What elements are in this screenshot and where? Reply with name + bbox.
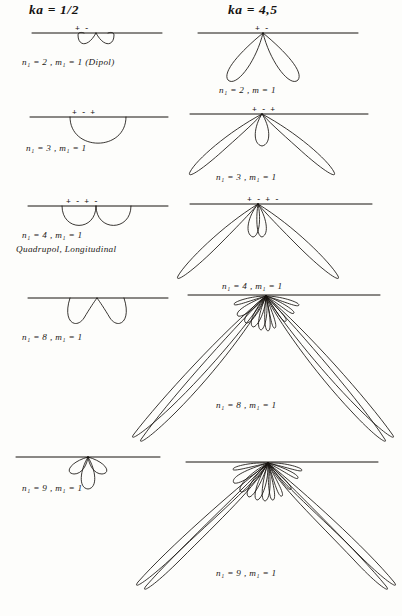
- lobe-group-left-row2: [30, 117, 168, 143]
- radiation-pattern-figure: ka = 1/2 ka = 4,5 + - + - + + - + - + - …: [0, 0, 402, 616]
- lobe-group-left-row4: [28, 298, 168, 324]
- lobe-group-right-row4: [133, 295, 394, 441]
- lobe-group-right-row5: [137, 462, 396, 589]
- lobe-group-right-row3: [177, 204, 372, 278]
- lobe-group-left-row3: [28, 206, 168, 226]
- pattern-drawing: [0, 0, 402, 616]
- lobe-group-left-row1: [32, 32, 162, 43]
- lobe-group-left-row5: [16, 457, 160, 489]
- lobe-group-right-row1: [198, 33, 358, 81]
- lobe-group-right-row2: [189, 114, 368, 175]
